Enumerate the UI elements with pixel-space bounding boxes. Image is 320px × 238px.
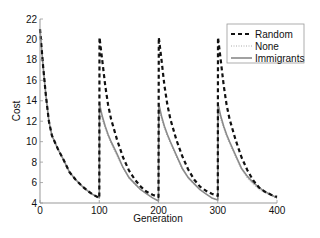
x-tick-label: 100 xyxy=(91,205,108,216)
legend-label-random: Random xyxy=(255,29,293,40)
y-tick-label: 16 xyxy=(26,75,38,86)
y-tick-label: 14 xyxy=(26,95,38,106)
x-tick-label: 300 xyxy=(209,205,226,216)
y-tick-label: 12 xyxy=(26,116,38,127)
legend: RandomNoneImmigrants xyxy=(227,24,304,64)
y-tick-label: 6 xyxy=(31,177,37,188)
legend-label-none: None xyxy=(255,41,279,52)
x-tick-label: 0 xyxy=(37,205,43,216)
y-axis-label: Cost xyxy=(11,100,22,121)
y-tick-label: 20 xyxy=(26,34,38,45)
y-tick-label: 8 xyxy=(31,157,37,168)
y-tick-label: 22 xyxy=(26,14,38,25)
legend-label-immigrants: Immigrants xyxy=(255,53,304,64)
x-axis-label: Generation xyxy=(133,213,182,224)
x-tick-label: 400 xyxy=(269,205,286,216)
y-tick-label: 18 xyxy=(26,54,38,65)
cost-vs-generation-chart: 0100200300400 46810121416182022 Generati… xyxy=(0,0,320,238)
y-tick-label: 4 xyxy=(31,198,37,209)
y-tick-label: 10 xyxy=(26,136,38,147)
